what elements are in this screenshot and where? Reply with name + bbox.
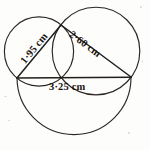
triangle-side-base (17, 77, 131, 78)
figure-canvas (0, 0, 150, 150)
geometry-figure: 1·95 cm 2·60 cm 3·25 cm (0, 0, 150, 150)
dimension-label-base: 3·25 cm (49, 83, 85, 94)
